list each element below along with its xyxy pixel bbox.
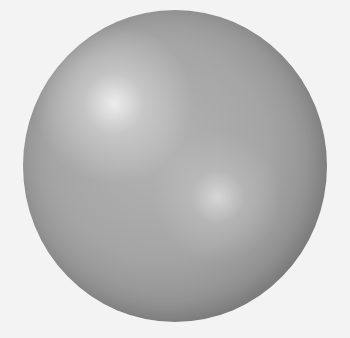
shaded-sphere <box>23 10 327 322</box>
